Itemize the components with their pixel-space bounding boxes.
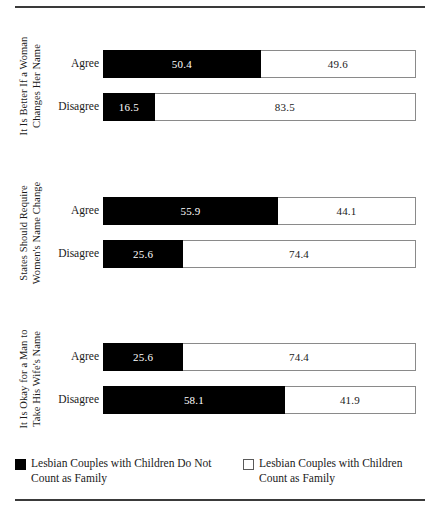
bar-row: Agree 50.4 49.6 — [0, 50, 436, 78]
bar-segment-dark[interactable]: 25.6 — [103, 343, 183, 371]
bar-value-light: 74.4 — [289, 352, 309, 363]
bar-row: Agree 55.9 44.1 — [0, 197, 436, 225]
legend-item-not-family[interactable]: Lesbian Couples with Children Do Not Cou… — [15, 456, 243, 486]
bar-value-light: 83.5 — [275, 102, 295, 113]
legend-label-not-family-line1: Lesbian Couples with Children Do Not — [31, 457, 211, 469]
bar-row: Disagree 16.5 83.5 — [0, 93, 436, 121]
chart-legend: Lesbian Couples with Children Do Not Cou… — [15, 456, 425, 486]
bar-value-dark: 25.6 — [133, 249, 153, 260]
row-label-agree: Agree — [0, 205, 103, 217]
bar-segment-light[interactable]: 74.4 — [183, 240, 416, 268]
bar-segment-dark[interactable]: 50.4 — [103, 50, 261, 78]
bar-segment-light[interactable]: 74.4 — [183, 343, 416, 371]
legend-swatch-filled-square-icon — [15, 459, 26, 470]
legend-label-family-line2: Count as Family — [259, 472, 335, 484]
bar-track: 55.9 44.1 — [103, 197, 416, 225]
bar-value-light: 44.1 — [336, 206, 356, 217]
bar-value-light: 74.4 — [289, 249, 309, 260]
legend-label-family-line1: Lesbian Couples with Children — [259, 457, 402, 469]
bar-segment-dark[interactable]: 55.9 — [103, 197, 278, 225]
bar-row: Disagree 25.6 74.4 — [0, 240, 436, 268]
legend-label-not-family-line2: Count as Family — [31, 472, 107, 484]
bar-track: 16.5 83.5 — [103, 93, 416, 121]
bar-value-light: 41.9 — [340, 395, 360, 406]
row-label-disagree: Disagree — [0, 394, 103, 406]
row-label-disagree: Disagree — [0, 248, 103, 260]
legend-label-not-family: Lesbian Couples with Children Do Not Cou… — [31, 456, 211, 486]
bar-segment-light[interactable]: 44.1 — [278, 197, 416, 225]
bar-value-dark: 16.5 — [119, 102, 139, 113]
legend-item-family[interactable]: Lesbian Couples with Children Count as F… — [243, 456, 425, 486]
bar-track: 25.6 74.4 — [103, 240, 416, 268]
bar-value-dark: 58.1 — [184, 395, 204, 406]
bar-track: 50.4 49.6 — [103, 50, 416, 78]
bar-value-dark: 50.4 — [172, 59, 192, 70]
bar-value-light: 49.6 — [328, 59, 348, 70]
bar-value-dark: 55.9 — [180, 206, 200, 217]
bar-row: Disagree 58.1 41.9 — [0, 386, 436, 414]
bar-segment-dark[interactable]: 25.6 — [103, 240, 183, 268]
bar-segment-light[interactable]: 83.5 — [155, 93, 416, 121]
legend-swatch-outlined-square-icon — [243, 459, 254, 470]
bar-track: 25.6 74.4 — [103, 343, 416, 371]
bar-segment-dark[interactable]: 16.5 — [103, 93, 155, 121]
row-label-agree: Agree — [0, 351, 103, 363]
bottom-rule — [15, 499, 425, 501]
bar-track: 58.1 41.9 — [103, 386, 416, 414]
bar-segment-light[interactable]: 41.9 — [285, 386, 416, 414]
bar-segment-dark[interactable]: 58.1 — [103, 386, 285, 414]
row-label-agree: Agree — [0, 58, 103, 70]
row-label-disagree: Disagree — [0, 101, 103, 113]
bar-row: Agree 25.6 74.4 — [0, 343, 436, 371]
bar-segment-light[interactable]: 49.6 — [261, 50, 416, 78]
chart-plot-area: It Is Better If a Woman Changes Her Name… — [0, 0, 436, 512]
bar-value-dark: 25.6 — [133, 352, 153, 363]
legend-label-family: Lesbian Couples with Children Count as F… — [259, 456, 402, 486]
